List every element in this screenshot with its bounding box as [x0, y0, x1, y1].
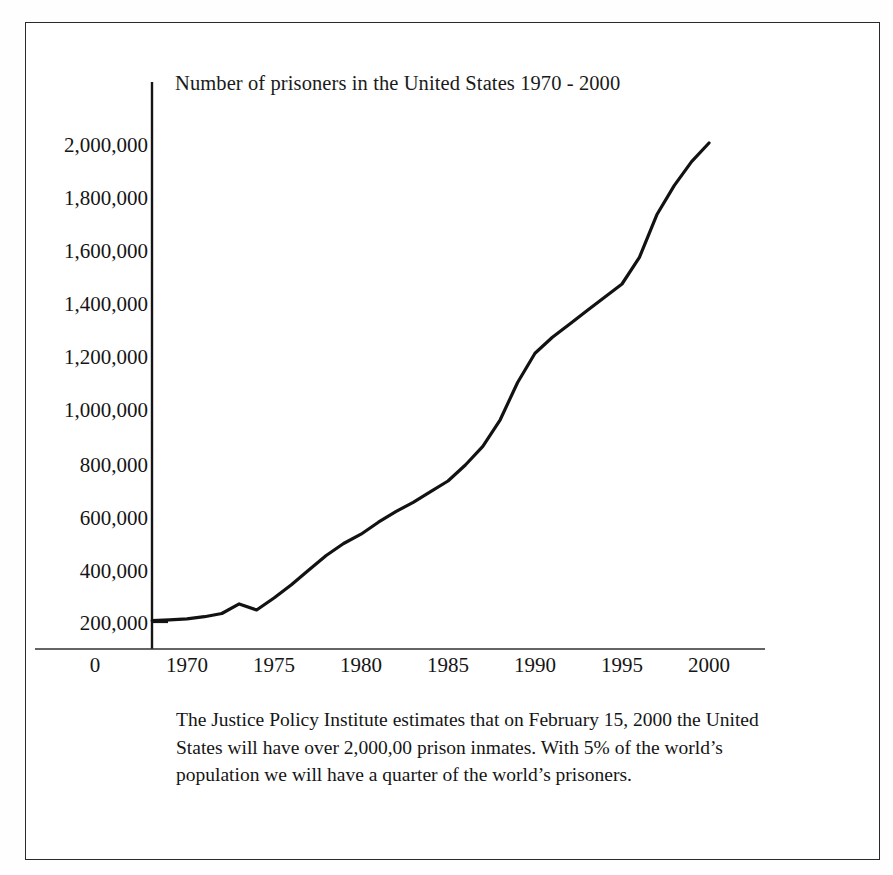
prisoners-line-chart: Number of prisoners in the United States…	[0, 0, 893, 875]
caption-line: The Justice Policy Institute estimates t…	[176, 706, 776, 734]
figure-page: Number of prisoners in the United States…	[0, 0, 893, 875]
figure-caption: The Justice Policy Institute estimates t…	[176, 706, 776, 789]
caption-line: population we will have a quarter of the…	[176, 761, 776, 789]
caption-line: States will have over 2,000,00 prison in…	[176, 734, 776, 762]
series-line-number-of-prisoners	[152, 143, 709, 621]
